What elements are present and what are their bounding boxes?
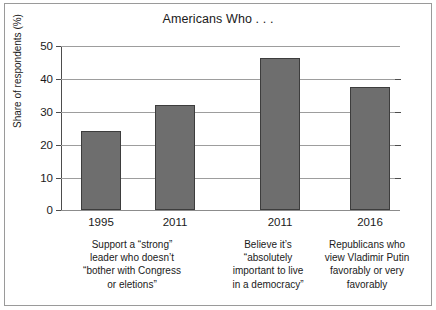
ytick-mark-50 (56, 46, 61, 47)
ytick-label-50: 50 (40, 40, 53, 52)
ytick-mark-right-10 (395, 178, 401, 179)
xtick-label-1: 1995 (88, 216, 114, 228)
ytick-mark-right-20 (395, 145, 401, 146)
ytick-mark-20 (56, 145, 61, 146)
ytick-label-40: 40 (40, 73, 53, 85)
chart-figure: Americans Who . . . Share of respondents… (0, 0, 436, 310)
bar-4 (350, 87, 390, 210)
bar-1 (81, 131, 121, 210)
ytick-label-20: 20 (40, 139, 53, 151)
caption-1-line-3: “bother with Congress (62, 264, 202, 277)
caption-3-line-4: favorably (306, 278, 428, 291)
ytick-label-30: 30 (40, 106, 53, 118)
gridline-40 (61, 79, 400, 80)
bar-2 (155, 105, 195, 210)
ytick-mark-right-40 (395, 79, 401, 80)
caption-3-line-1: Republicans who (306, 238, 428, 251)
group-caption-3: Republicans who view Vladimir Putin favo… (306, 238, 428, 291)
y-axis-label: Share of respondents (%) (12, 14, 23, 128)
y-axis-line (61, 46, 62, 211)
ytick-mark-30 (56, 112, 61, 113)
xtick-label-3: 2011 (268, 216, 293, 228)
bar-3 (260, 58, 300, 210)
caption-1-line-2: leader who doesn’t (62, 251, 202, 264)
ytick-mark-40 (56, 79, 61, 80)
caption-3-line-2: view Vladimir Putin (306, 251, 428, 264)
group-caption-1: Support a “strong” leader who doesn’t “b… (62, 238, 202, 291)
plot-area: 50 40 30 20 10 0 1995 2011 2011 2016 (61, 46, 400, 211)
xtick-label-2: 2011 (163, 216, 188, 228)
ytick-label-10: 10 (40, 172, 53, 184)
ytick-mark-10 (56, 178, 61, 179)
gridline-50 (61, 46, 400, 47)
x-axis-line (61, 210, 400, 211)
ytick-mark-0 (56, 210, 61, 211)
caption-1-line-4: or eletions” (62, 278, 202, 291)
caption-1-line-1: Support a “strong” (62, 238, 202, 251)
ytick-label-0: 0 (47, 204, 53, 216)
caption-3-line-3: favorably or very (306, 264, 428, 277)
chart-title: Americans Who . . . (0, 12, 436, 26)
xtick-label-4: 2016 (357, 216, 383, 228)
ytick-mark-right-30 (395, 112, 401, 113)
